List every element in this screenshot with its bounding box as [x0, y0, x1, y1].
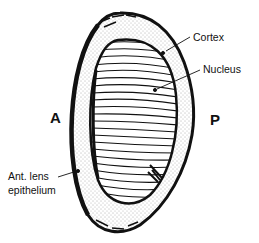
label-cortex: Cortex	[193, 31, 224, 43]
label-epithelium-line2: epithelium	[8, 184, 56, 196]
label-nucleus: Nucleus	[203, 63, 241, 75]
label-anterior: A	[50, 110, 61, 126]
label-epithelium-line1: Ant. lens	[8, 170, 49, 182]
label-posterior: P	[210, 112, 220, 128]
